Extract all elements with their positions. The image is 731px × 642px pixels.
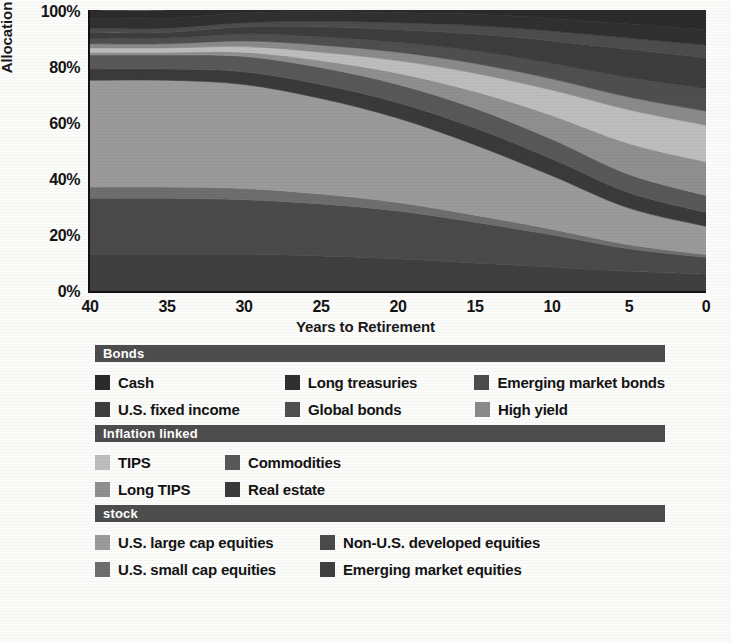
legend-item-label: U.S. large cap equities xyxy=(118,534,273,551)
x-tick-label: 15 xyxy=(455,299,495,315)
x-tick-label: 35 xyxy=(147,299,187,315)
legend-swatch-icon xyxy=(475,402,490,417)
legend-item-tips[interactable]: TIPS xyxy=(95,454,225,471)
legend-row: CashLong treasuriesEmerging market bonds xyxy=(95,369,665,396)
legend-item-label: Real estate xyxy=(248,481,325,498)
x-tick-label: 30 xyxy=(224,299,264,315)
legend-item-label: Cash xyxy=(118,374,154,391)
legend-item-long-treasuries[interactable]: Long treasuries xyxy=(285,374,475,391)
legend-item-emerging-market-equities[interactable]: Emerging market equities xyxy=(320,561,522,578)
x-tick-label: 20 xyxy=(378,299,418,315)
legend-swatch-icon xyxy=(320,535,335,550)
legend-item-label: Long TIPS xyxy=(118,481,190,498)
legend-row: U.S. large cap equitiesNon-U.S. develope… xyxy=(95,529,665,556)
legend-item-u-s-small-cap-equities[interactable]: U.S. small cap equities xyxy=(95,561,320,578)
x-tick-label: 0 xyxy=(686,299,726,315)
x-axis-title: Years to Retirement xyxy=(0,318,731,335)
legend-group-header: Bonds xyxy=(95,345,665,362)
legend-item-label: High yield xyxy=(498,401,568,418)
legend-row: TIPSCommodities xyxy=(95,449,665,476)
legend-swatch-icon xyxy=(95,455,110,470)
legend-item-real-estate[interactable]: Real estate xyxy=(225,481,325,498)
legend-rows: TIPSCommoditiesLong TIPSReal estate xyxy=(95,449,665,503)
legend-item-label: Non-U.S. developed equities xyxy=(343,534,540,551)
legend-item-commodities[interactable]: Commodities xyxy=(225,454,341,471)
legend-swatch-icon xyxy=(225,455,240,470)
legend-swatch-icon xyxy=(95,562,110,577)
legend-item-label: Emerging market bonds xyxy=(497,374,665,391)
legend-rows: CashLong treasuriesEmerging market bonds… xyxy=(95,369,665,423)
legend-swatch-icon xyxy=(320,562,335,577)
legend-swatch-icon xyxy=(95,375,110,390)
chart-legend: BondsCashLong treasuriesEmerging market … xyxy=(95,345,665,585)
legend-item-label: U.S. fixed income xyxy=(118,401,240,418)
legend-rows: U.S. large cap equitiesNon-U.S. develope… xyxy=(95,529,665,583)
legend-item-non-u-s-developed-equities[interactable]: Non-U.S. developed equities xyxy=(320,534,540,551)
legend-item-label: U.S. small cap equities xyxy=(118,561,276,578)
legend-item-label: Commodities xyxy=(248,454,341,471)
legend-swatch-icon xyxy=(95,535,110,550)
legend-group-header: stock xyxy=(95,505,665,522)
legend-item-global-bonds[interactable]: Global bonds xyxy=(285,401,475,418)
legend-swatch-icon xyxy=(95,482,110,497)
legend-item-high-yield[interactable]: High yield xyxy=(475,401,568,418)
plot-frame xyxy=(88,10,706,293)
legend-swatch-icon xyxy=(285,375,300,390)
legend-item-label: TIPS xyxy=(118,454,151,471)
legend-swatch-icon xyxy=(474,375,489,390)
legend-item-u-s-large-cap-equities[interactable]: U.S. large cap equities xyxy=(95,534,320,551)
legend-item-u-s-fixed-income[interactable]: U.S. fixed income xyxy=(95,401,285,418)
area-series-svg xyxy=(90,10,706,291)
legend-swatch-icon xyxy=(95,402,110,417)
legend-swatch-icon xyxy=(285,402,300,417)
legend-group-bonds: BondsCashLong treasuriesEmerging market … xyxy=(95,345,665,423)
legend-group-stock: stockU.S. large cap equitiesNon-U.S. dev… xyxy=(95,505,665,583)
legend-row: U.S. small cap equitiesEmerging market e… xyxy=(95,556,665,583)
x-tick-label: 40 xyxy=(70,299,110,315)
legend-item-label: Long treasuries xyxy=(308,374,418,391)
legend-group-header: Inflation linked xyxy=(95,425,665,442)
legend-item-label: Emerging market equities xyxy=(343,561,522,578)
x-tick-label: 10 xyxy=(532,299,572,315)
x-tick-label: 25 xyxy=(301,299,341,315)
legend-item-cash[interactable]: Cash xyxy=(95,374,285,391)
legend-row: Long TIPSReal estate xyxy=(95,476,665,503)
chart-page: Allocation (%) 100% 80% 60% 40% 20% 0% 4… xyxy=(0,0,731,642)
legend-group-inflation-linked: Inflation linkedTIPSCommoditiesLong TIPS… xyxy=(95,425,665,503)
legend-item-emerging-market-bonds[interactable]: Emerging market bonds xyxy=(474,374,665,391)
legend-item-long-tips[interactable]: Long TIPS xyxy=(95,481,225,498)
legend-item-label: Global bonds xyxy=(308,401,401,418)
legend-swatch-icon xyxy=(225,482,240,497)
glidepath-chart: Allocation (%) 100% 80% 60% 40% 20% 0% 4… xyxy=(0,0,731,340)
x-tick-label: 5 xyxy=(609,299,649,315)
legend-row: U.S. fixed incomeGlobal bondsHigh yield xyxy=(95,396,665,423)
stacked-area-plot xyxy=(90,10,706,291)
